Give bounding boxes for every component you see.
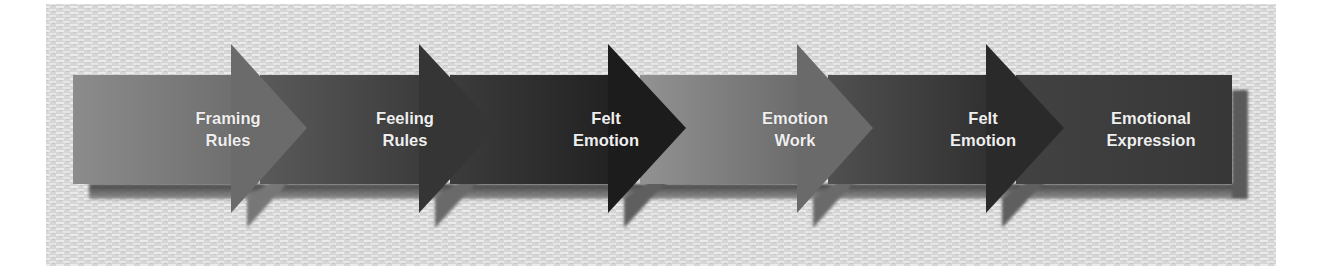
step-label-line2: Work [725, 129, 865, 151]
step-label-line1: Feeling [335, 107, 475, 129]
step-label-line2: Emotion [913, 129, 1053, 151]
step-label-line1: Felt [913, 107, 1053, 129]
step-label-framing-rules: Framing Rules [158, 107, 298, 151]
step-label-emotional-expression: Emotional Expression [1081, 107, 1221, 151]
step-label-line2: Emotion [536, 129, 676, 151]
step-label-line2: Expression [1081, 129, 1221, 151]
step-label-line2: Rules [335, 129, 475, 151]
step-label-line1: Emotion [725, 107, 865, 129]
step-label-felt-emotion-1: Felt Emotion [536, 107, 676, 151]
step-label-line1: Framing [158, 107, 298, 129]
step-label-line2: Rules [158, 129, 298, 151]
step-label-feeling-rules: Feeling Rules [335, 107, 475, 151]
step-label-line1: Emotional [1081, 107, 1221, 129]
step-label-emotion-work: Emotion Work [725, 107, 865, 151]
step-label-line1: Felt [536, 107, 676, 129]
step-label-felt-emotion-2: Felt Emotion [913, 107, 1053, 151]
